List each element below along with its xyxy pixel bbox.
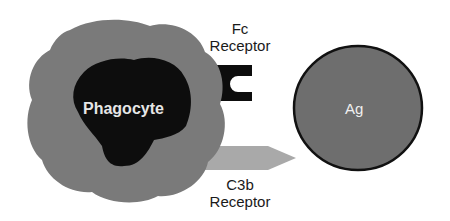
fc-receptor-label-line1: Fc — [200, 20, 280, 37]
antigen-label: Ag — [345, 100, 363, 117]
fc-receptor-label: Fc Receptor — [200, 20, 280, 54]
fc-receptor-label-line2: Receptor — [200, 37, 280, 54]
c3b-receptor-label: C3b Receptor — [200, 176, 280, 210]
phagocyte-receptor-diagram: Phagocyte Ag Fc Receptor C3b Receptor — [0, 0, 450, 221]
phagocyte-label: Phagocyte — [83, 100, 164, 118]
c3b-receptor-label-line2: Receptor — [200, 193, 280, 210]
c3b-receptor-label-line1: C3b — [200, 176, 280, 193]
